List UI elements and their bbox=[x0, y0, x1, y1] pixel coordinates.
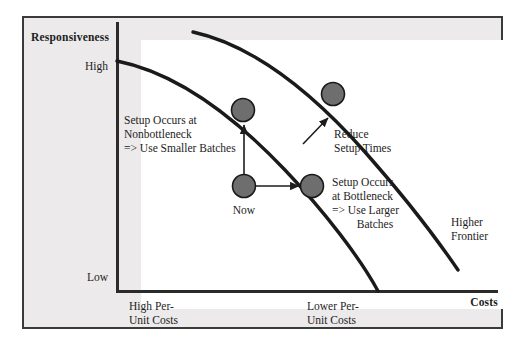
y-tick-high: High bbox=[48, 60, 108, 74]
marker-nonbottleneck-point bbox=[232, 99, 255, 122]
x-axis-title: Costs bbox=[418, 296, 498, 310]
annotation-bottleneck-line3: => Use Larger bbox=[332, 204, 399, 218]
marker-now-point bbox=[233, 175, 256, 198]
y-tick-low: Low bbox=[48, 271, 108, 285]
annotation-higher-frontier-line1: Higher bbox=[451, 216, 483, 230]
annotation-nonbottleneck-line2: Nonbottleneck bbox=[124, 128, 192, 142]
x-tick-left-line1: High Per- bbox=[129, 300, 174, 314]
annotation-reduce-line1: Reduce bbox=[334, 128, 368, 142]
annotation-now-label: Now bbox=[214, 204, 274, 218]
x-tick-right-line2: Unit Costs bbox=[307, 314, 356, 328]
annotation-bottleneck-line2: at Bottleneck bbox=[332, 190, 393, 204]
annotation-bottleneck-line4: Batches bbox=[332, 218, 418, 232]
annotation-reduce-line2: Setup Times bbox=[334, 142, 391, 156]
annotation-higher-frontier-line2: Frontier bbox=[451, 230, 488, 244]
marker-bottleneck-point bbox=[301, 175, 324, 198]
x-tick-right-line1: Lower Per- bbox=[307, 300, 359, 314]
annotation-bottleneck-line1: Setup Occurs bbox=[332, 176, 394, 190]
y-axis-title: Responsiveness bbox=[31, 31, 109, 45]
marker-higher-frontier-point bbox=[322, 83, 345, 106]
arrow-reduce-setup-times bbox=[303, 118, 328, 144]
figure-canvas: Responsiveness High Low Costs High Per- … bbox=[0, 0, 525, 348]
annotation-nonbottleneck-line1: Setup Occurs at bbox=[124, 114, 197, 128]
x-tick-left-line2: Unit Costs bbox=[129, 314, 178, 328]
annotation-nonbottleneck-line3: => Use Smaller Batches bbox=[124, 142, 236, 156]
